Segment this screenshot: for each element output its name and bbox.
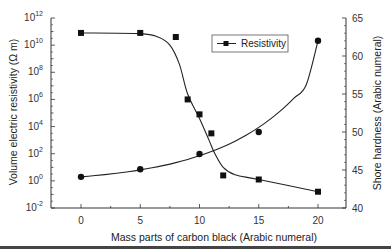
chart: 1012101010810610410210010-26560555045400…: [0, 0, 391, 249]
legend-square-marker-icon: [224, 41, 229, 46]
y-tick-label: 106: [28, 91, 43, 104]
y2-tick-label: 55: [352, 89, 364, 100]
resistivity-point: [197, 111, 203, 117]
x-tick-label: 10: [194, 215, 206, 226]
y-tick-label: 104: [28, 119, 43, 132]
resistivity-point: [315, 189, 321, 195]
resistivity-point: [173, 34, 179, 40]
resistivity-point: [208, 130, 214, 136]
x-tick-label: 20: [312, 215, 324, 226]
y-tick-label: 1010: [24, 37, 43, 50]
y-tick-label: 108: [28, 64, 43, 77]
y2-tick-label: 65: [352, 13, 364, 24]
resistivity-point: [256, 177, 262, 183]
resistivity-point: [185, 96, 191, 102]
axes: 1012101010810610410210010-26560555045400…: [24, 10, 363, 226]
legend: Resistivity: [212, 35, 288, 52]
y2-tick-label: 45: [352, 165, 364, 176]
resistivity-point: [78, 30, 84, 36]
y2-axis-title: Shore hardness (Arabic numeral): [371, 36, 383, 191]
x-tick-label: 5: [137, 215, 143, 226]
x-tick-label: 0: [78, 215, 84, 226]
resistivity-point: [137, 30, 143, 36]
x-tick-label: 15: [253, 215, 265, 226]
y-tick-label: 1012: [24, 10, 43, 23]
data-markers: [78, 30, 321, 195]
y-tick-label: 100: [28, 173, 43, 186]
y-tick-label: 102: [28, 146, 43, 159]
y2-tick-label: 60: [352, 51, 364, 62]
hardness-point: [315, 38, 321, 44]
y2-tick-label: 50: [352, 127, 364, 138]
y-axis-title: Volume electric resistivity (Ω m): [7, 39, 19, 186]
hardness-point: [196, 151, 202, 157]
x-axis-title: Mass parts of carbon black (Arabic numer…: [111, 231, 317, 243]
hardness-point: [256, 129, 262, 135]
hardness-point: [137, 166, 143, 172]
y-tick-label: 10-2: [26, 200, 43, 213]
y2-tick-label: 40: [352, 203, 364, 214]
hardness-point: [78, 174, 84, 180]
resistivity-point: [220, 172, 226, 178]
legend-label-resistivity: Resistivity: [241, 38, 286, 49]
